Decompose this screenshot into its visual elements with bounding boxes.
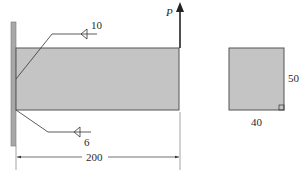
- load-arrow: [176, 2, 184, 48]
- cross-section: [229, 48, 284, 110]
- length-label: 200: [86, 151, 103, 163]
- load-label: P: [165, 6, 173, 18]
- cantilever-weld-diagram: P 10 6 200 50 40: [0, 0, 307, 182]
- wall-support: [11, 22, 16, 146]
- cross-section-width: 40: [251, 116, 263, 128]
- bottom-weld-size: 6: [84, 136, 90, 148]
- beam: [16, 48, 179, 110]
- top-weld-size: 10: [91, 19, 103, 31]
- bottom-weld-symbol: [16, 110, 91, 137]
- cross-section-height: 50: [288, 72, 300, 84]
